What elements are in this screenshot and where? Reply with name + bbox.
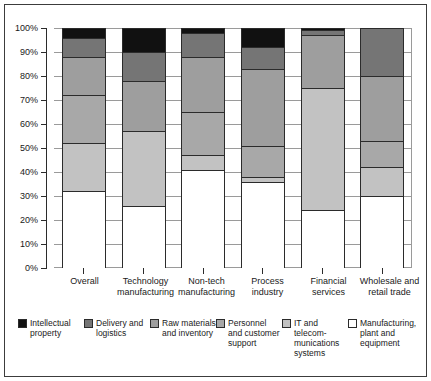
- y-axis-tick: [41, 172, 47, 173]
- legend-label-line: Raw materials: [162, 318, 216, 328]
- y-axis-tick-label: 80%: [20, 71, 38, 81]
- bar-segment[interactable]: [242, 183, 284, 269]
- x-axis-label-line: Non-tech: [176, 276, 237, 287]
- legend-label-line: property: [30, 328, 71, 338]
- bar-segment[interactable]: [182, 171, 224, 269]
- stacked-bar[interactable]: [62, 28, 106, 268]
- x-axis-label-line: manufacturing: [115, 287, 176, 298]
- bar-slot: [114, 28, 174, 268]
- legend-label: Intellectualproperty: [30, 318, 71, 338]
- legend-item[interactable]: Raw materialsand inventory: [150, 318, 216, 358]
- x-axis-label: Financialservices: [298, 276, 359, 298]
- bar-segment[interactable]: [361, 168, 403, 197]
- y-axis-tick: [41, 124, 47, 125]
- y-axis-tick: [41, 76, 47, 77]
- stacked-bar[interactable]: [122, 28, 166, 268]
- legend-label-line: Delivery and: [96, 318, 143, 328]
- bar-segment[interactable]: [182, 156, 224, 170]
- x-axis-tick: [143, 268, 144, 274]
- legend-label-line: Intellectual: [30, 318, 71, 328]
- chart-figure: 0%10%20%30%40%50%60%70%80%90%100% Overal…: [0, 0, 431, 381]
- legend-item[interactable]: IT and telecom-municationssystems: [282, 318, 348, 358]
- chart-legend: IntellectualpropertyDelivery andlogistic…: [18, 318, 418, 358]
- bar-segment[interactable]: [361, 29, 403, 77]
- x-axis-labels: OverallTechnologymanufacturingNon-techma…: [54, 276, 420, 298]
- legend-label-line: logistics: [96, 328, 143, 338]
- bar-segment[interactable]: [361, 77, 403, 142]
- y-axis-tick: [41, 28, 47, 29]
- y-axis-tick: [41, 220, 47, 221]
- bar-segment[interactable]: [182, 58, 224, 113]
- x-axis-label: Overall: [54, 276, 115, 298]
- stacked-bar[interactable]: [301, 28, 345, 268]
- legend-item[interactable]: Personneland customersupport: [216, 318, 282, 358]
- x-axis-label: Wholesale andretail trade: [359, 276, 420, 298]
- legend-label: IT and telecom-municationssystems: [294, 318, 348, 358]
- bar-segment[interactable]: [123, 53, 165, 82]
- bar-segment[interactable]: [182, 113, 224, 156]
- bar-segment[interactable]: [123, 29, 165, 53]
- legend-swatch: [282, 319, 291, 328]
- bar-segment[interactable]: [302, 211, 344, 269]
- stacked-bar[interactable]: [181, 28, 225, 268]
- legend-item[interactable]: Delivery andlogistics: [84, 318, 150, 358]
- x-axis-tick: [203, 268, 204, 274]
- bar-segment[interactable]: [242, 70, 284, 147]
- legend-label: Raw materialsand inventory: [162, 318, 216, 338]
- bar-slot: [54, 28, 114, 268]
- y-axis-tick-label: 10%: [20, 239, 38, 249]
- legend-swatch: [348, 319, 357, 328]
- legend-swatch: [216, 319, 225, 328]
- stacked-bar[interactable]: [241, 28, 285, 268]
- x-axis-tick: [83, 268, 84, 274]
- bar-series-container: [54, 28, 412, 268]
- legend-label-line: Personnel: [228, 318, 280, 328]
- x-axis-label-line: Wholesale and: [359, 276, 420, 287]
- x-axis-label-line: Overall: [54, 276, 115, 287]
- bar-segment[interactable]: [182, 34, 224, 58]
- bar-segment[interactable]: [242, 147, 284, 178]
- y-axis-tick-label: 70%: [20, 95, 38, 105]
- legend-label-line: munications: [294, 338, 348, 348]
- bar-segment[interactable]: [242, 29, 284, 48]
- bar-segment[interactable]: [123, 132, 165, 206]
- legend-swatch: [18, 319, 27, 328]
- bar-segment[interactable]: [361, 142, 403, 168]
- bar-slot: [352, 28, 412, 268]
- stacked-bar[interactable]: [360, 28, 404, 268]
- bar-segment[interactable]: [123, 82, 165, 132]
- y-axis-tick-label: 30%: [20, 191, 38, 201]
- y-axis-tick: [41, 244, 47, 245]
- legend-label-line: equipment: [360, 338, 416, 348]
- x-axis-tick: [322, 268, 323, 274]
- bar-segment[interactable]: [123, 207, 165, 269]
- x-axis-label-line: Financial: [298, 276, 359, 287]
- x-axis-tick: [382, 268, 383, 274]
- bar-segment[interactable]: [63, 58, 105, 96]
- bar-segment[interactable]: [242, 48, 284, 70]
- bar-segment[interactable]: [302, 89, 344, 211]
- legend-label-line: systems: [294, 348, 348, 358]
- x-axis-label-line: manufacturing: [176, 287, 237, 298]
- y-axis-tick-label: 20%: [20, 215, 38, 225]
- bar-segment[interactable]: [63, 39, 105, 58]
- x-axis-label: Non-techmanufacturing: [176, 276, 237, 298]
- x-axis-tick: [262, 268, 263, 274]
- bar-segment[interactable]: [361, 197, 403, 269]
- bar-segment[interactable]: [302, 36, 344, 89]
- y-axis-tick-label: 90%: [20, 47, 38, 57]
- x-axis-label: Technologymanufacturing: [115, 276, 176, 298]
- y-axis-tick-label: 60%: [20, 119, 38, 129]
- bar-segment[interactable]: [63, 96, 105, 144]
- bar-segment[interactable]: [63, 192, 105, 269]
- legend-item[interactable]: Intellectualproperty: [18, 318, 84, 358]
- x-axis-label-line: industry: [237, 287, 298, 298]
- bar-slot: [173, 28, 233, 268]
- y-axis-tick: [41, 196, 47, 197]
- bar-segment[interactable]: [63, 29, 105, 39]
- legend-item[interactable]: Manufacturing,plant andequipment: [348, 318, 414, 358]
- y-axis-tick: [41, 52, 47, 53]
- legend-label: Personneland customersupport: [228, 318, 280, 348]
- bar-segment[interactable]: [63, 144, 105, 192]
- legend-label-line: plant and: [360, 328, 416, 338]
